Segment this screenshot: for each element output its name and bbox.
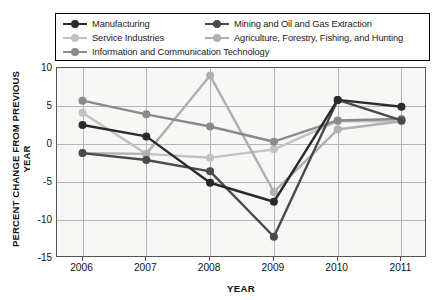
- data-point-marker: [334, 116, 342, 124]
- legend-label: Manufacturing: [92, 19, 150, 29]
- data-point-marker: [206, 179, 214, 187]
- legend-marker-icon: [62, 46, 88, 58]
- data-point-marker: [79, 121, 87, 129]
- data-point-marker: [334, 96, 342, 104]
- data-point-marker: [142, 110, 150, 118]
- data-point-marker: [79, 97, 87, 105]
- data-point-marker: [79, 149, 87, 157]
- data-point-marker: [206, 167, 214, 175]
- data-point-marker: [397, 116, 405, 124]
- data-point-marker: [206, 72, 214, 80]
- data-point-marker: [397, 103, 405, 111]
- legend-item[interactable]: Service Industries: [62, 31, 204, 45]
- x-tick-label: 2007: [122, 262, 168, 273]
- data-point-marker: [270, 145, 278, 153]
- legend-label: Service Industries: [92, 33, 164, 43]
- x-tick-label: 2011: [377, 262, 423, 273]
- chart-legend: ManufacturingMining and Oil and Gas Extr…: [55, 13, 430, 61]
- y-tick-label: 10: [24, 62, 52, 73]
- x-tick-label: 2009: [250, 262, 296, 273]
- series-line: [83, 100, 402, 202]
- y-tick-label: 5: [24, 100, 52, 111]
- legend-marker-icon: [62, 18, 88, 30]
- x-tick-mark: [209, 257, 210, 261]
- data-point-marker: [142, 156, 150, 164]
- y-tick-label: -15: [24, 252, 52, 263]
- legend-label: Mining and Oil and Gas Extraction: [234, 19, 372, 29]
- legend-item[interactable]: Mining and Oil and Gas Extraction: [204, 17, 430, 31]
- y-tick-label: -5: [24, 176, 52, 187]
- x-tick-label: 2008: [186, 262, 232, 273]
- data-point-marker: [206, 154, 214, 162]
- data-point-marker: [270, 188, 278, 196]
- data-point-marker: [142, 132, 150, 140]
- y-axis-tick-labels: 1050-5-10-15: [20, 67, 52, 257]
- legend-item[interactable]: Agriculture, Forestry, Fishing, and Hunt…: [204, 31, 430, 45]
- y-tick-label: -10: [24, 214, 52, 225]
- plot-area: [56, 67, 426, 257]
- line-chart: ManufacturingMining and Oil and Gas Extr…: [0, 0, 438, 300]
- legend-label: Agriculture, Forestry, Fishing, and Hunt…: [234, 33, 403, 43]
- data-point-marker: [270, 233, 278, 241]
- x-tick-label: 2010: [314, 262, 360, 273]
- data-point-marker: [270, 198, 278, 206]
- legend-label: Information and Communication Technology: [92, 47, 269, 57]
- x-tick-mark: [82, 257, 83, 261]
- legend-marker-icon: [204, 32, 230, 44]
- series-lines: [57, 68, 427, 258]
- data-point-marker: [270, 138, 278, 146]
- x-tick-mark: [337, 257, 338, 261]
- legend-marker-icon: [62, 32, 88, 44]
- legend-item[interactable]: Manufacturing: [62, 17, 204, 31]
- legend-marker-icon: [204, 18, 230, 30]
- data-point-marker: [206, 123, 214, 131]
- y-tick-label: 0: [24, 138, 52, 149]
- legend-items: ManufacturingMining and Oil and Gas Extr…: [62, 17, 430, 59]
- x-tick-mark: [273, 257, 274, 261]
- x-tick-label: 2006: [59, 262, 105, 273]
- x-tick-mark: [145, 257, 146, 261]
- data-point-marker: [79, 109, 87, 117]
- legend-item[interactable]: Information and Communication Technology: [62, 45, 204, 59]
- x-tick-mark: [400, 257, 401, 261]
- x-axis-title: YEAR: [56, 283, 426, 294]
- data-point-marker: [334, 126, 342, 134]
